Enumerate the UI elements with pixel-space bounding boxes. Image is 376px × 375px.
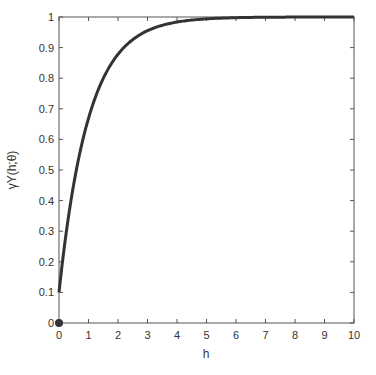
x-axis-label: h	[203, 347, 210, 361]
y-tick-label: 0.3	[39, 225, 54, 237]
y-tick-label: 0.2	[39, 256, 54, 268]
plot-area	[59, 17, 354, 323]
y-tick-label: 0.6	[39, 133, 54, 145]
y-tick-label: 0.8	[39, 72, 54, 84]
y-axis-label: γY(h;θ)	[5, 151, 19, 190]
x-tick-label: 2	[115, 329, 121, 341]
y-tick-label: 0	[48, 317, 54, 329]
x-tick-label: 0	[56, 329, 62, 341]
origin-marker	[55, 319, 63, 327]
x-tick-label: 8	[292, 329, 298, 341]
y-tick-label: 0.9	[39, 42, 54, 54]
y-tick-label: 0.5	[39, 164, 54, 176]
x-tick-label: 5	[203, 329, 209, 341]
y-tick-label: 0.4	[39, 195, 54, 207]
chart: 012345678910 00.10.20.30.40.50.60.70.80.…	[0, 0, 376, 375]
x-tick-label: 3	[144, 329, 150, 341]
y-tick-label: 1	[48, 11, 54, 23]
y-tick-label: 0.7	[39, 103, 54, 115]
x-tick-label: 9	[321, 329, 327, 341]
x-tick-label: 7	[262, 329, 268, 341]
x-tick-label: 1	[85, 329, 91, 341]
y-tick-label: 0.1	[39, 286, 54, 298]
x-tick-label: 4	[174, 329, 180, 341]
x-tick-label: 6	[233, 329, 239, 341]
x-tick-label: 10	[348, 329, 360, 341]
